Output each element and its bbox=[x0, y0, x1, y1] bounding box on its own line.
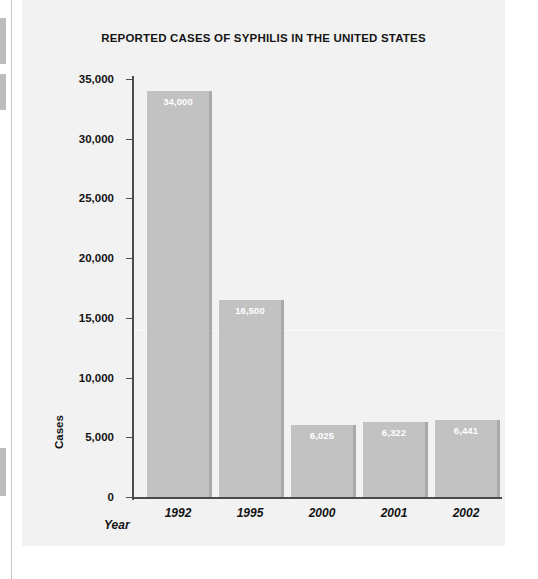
x-axis-tick-label: 2001 bbox=[359, 506, 429, 520]
y-axis-tick-mark bbox=[126, 139, 133, 140]
y-axis-tick-label: 10,000 bbox=[48, 372, 114, 384]
x-axis-title: Year bbox=[104, 518, 130, 532]
y-axis-tick-mark bbox=[126, 79, 133, 80]
y-axis-tick-label: 30,000 bbox=[48, 133, 114, 145]
bar-group[interactable]: 34,0001992 bbox=[147, 91, 213, 497]
y-axis-tick-mark bbox=[126, 497, 133, 498]
x-axis-tick-label: 1995 bbox=[215, 506, 285, 520]
y-axis-tick-label: 25,000 bbox=[48, 192, 114, 204]
x-axis-tick-label: 2002 bbox=[431, 506, 501, 520]
y-axis-tick-mark bbox=[126, 258, 133, 259]
bar-group[interactable]: 16,5001995 bbox=[219, 300, 285, 497]
y-axis-tick-mark bbox=[126, 437, 133, 438]
y-axis-tick-label: 15,000 bbox=[48, 312, 114, 324]
bar[interactable]: 6,025 bbox=[291, 425, 353, 497]
bar-value-label: 6,441 bbox=[435, 425, 497, 436]
bar[interactable]: 34,000 bbox=[147, 91, 209, 497]
page-edge-rule bbox=[11, 0, 12, 579]
bar-group[interactable]: 6,0252000 bbox=[291, 425, 357, 497]
y-axis-title: Cases bbox=[53, 415, 65, 449]
bar-group[interactable]: 6,3222001 bbox=[363, 422, 429, 498]
y-axis-tick-mark bbox=[126, 318, 133, 319]
bar-value-label: 34,000 bbox=[147, 96, 209, 107]
bar-value-label: 16,500 bbox=[219, 305, 281, 316]
x-axis-tick-label: 2000 bbox=[287, 506, 357, 520]
bar-group[interactable]: 6,4412002 bbox=[435, 420, 501, 497]
bar[interactable]: 6,322 bbox=[363, 422, 425, 498]
bar-value-label: 6,025 bbox=[291, 430, 353, 441]
bar[interactable]: 16,500 bbox=[219, 300, 281, 497]
page-edge-mark-middle bbox=[0, 74, 6, 110]
y-axis-tick-mark bbox=[126, 378, 133, 379]
y-axis-tick-label: 35,000 bbox=[48, 73, 114, 85]
y-axis-tick-mark bbox=[126, 198, 133, 199]
bar[interactable]: 6,441 bbox=[435, 420, 497, 497]
bar-value-label: 6,322 bbox=[363, 427, 425, 438]
bar-chart-panel: REPORTED CASES OF SYPHILIS IN THE UNITED… bbox=[22, 0, 505, 546]
y-axis-tick-label: 0 bbox=[48, 491, 114, 503]
page-edge-mark-bottom bbox=[0, 448, 6, 496]
y-axis-tick-labels: 05,00010,00015,00020,00025,00030,00035,0… bbox=[48, 0, 114, 546]
y-axis-tick-label: 20,000 bbox=[48, 252, 114, 264]
bars-layer: 34,000199216,50019956,02520006,32220016,… bbox=[133, 0, 505, 546]
x-axis-tick-label: 1992 bbox=[143, 506, 213, 520]
page-edge-mark-top bbox=[0, 18, 6, 64]
